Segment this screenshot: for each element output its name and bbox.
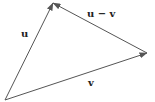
vector-diagram: u u − v v (0, 0, 155, 102)
vector-u-arrow (5, 3, 53, 100)
label-u-minus-v: u − v (87, 8, 117, 19)
vector-v-arrow (5, 53, 147, 100)
label-v: v (87, 77, 95, 88)
label-u: u (21, 28, 28, 39)
